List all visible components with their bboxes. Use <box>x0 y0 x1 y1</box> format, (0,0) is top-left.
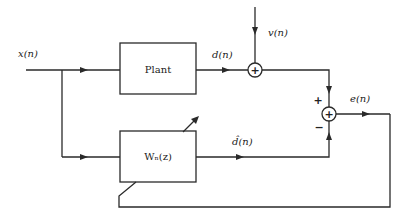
plus-sign: + <box>313 94 322 107</box>
adaptive-filter-block: Wₙ(z) <box>120 131 196 182</box>
input-path <box>26 67 120 160</box>
plant-block: Plant <box>120 43 196 94</box>
filter-label: Wₙ(z) <box>144 151 172 162</box>
arrow-icon <box>326 132 332 140</box>
noise-label: v(n) <box>268 27 288 38</box>
arrow-icon <box>362 111 370 117</box>
arrow-icon <box>80 154 88 160</box>
plant-output-label: d(n) <box>212 49 233 60</box>
minus-sign: − <box>314 121 323 134</box>
system-identification-diagram: x(n) Plant d(n) v(n) + + + − e(n) Wₙ(z) … <box>0 0 408 220</box>
error-label: e(n) <box>350 93 370 104</box>
arrow-icon <box>326 86 332 94</box>
input-label: x(n) <box>18 48 38 59</box>
arrow-icon <box>236 154 244 160</box>
svg-text:+: + <box>250 64 259 77</box>
summing-junction-2: + <box>322 107 336 121</box>
arrow-icon <box>80 67 88 73</box>
arrow-icon <box>252 27 258 35</box>
arrow-icon <box>222 67 230 73</box>
summing-junction-1: + <box>248 63 262 77</box>
svg-text:+: + <box>324 108 333 121</box>
plant-label: Plant <box>145 64 171 75</box>
filter-output-label: d̂(n) <box>232 135 253 147</box>
